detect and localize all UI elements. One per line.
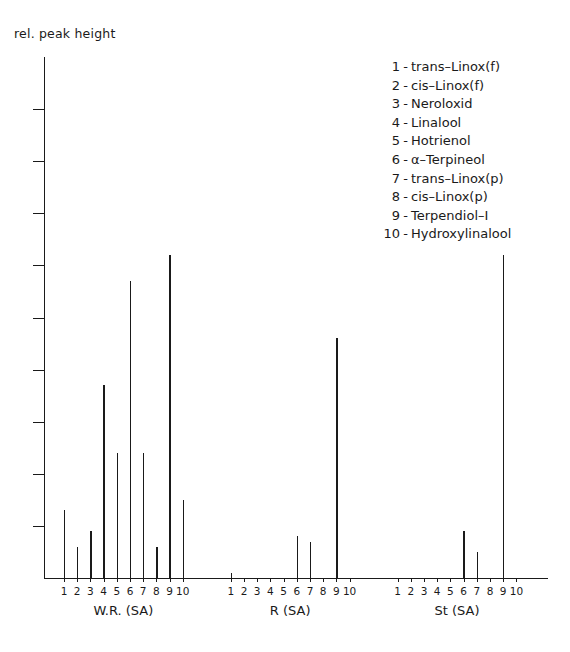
x-axis-tick [143,578,144,582]
legend-entry-separator: - [400,188,411,207]
legend-entry: 5-Hotrienol [381,132,511,151]
legend-entry-separator: - [400,95,411,114]
bar [64,510,66,578]
x-axis-tick [130,578,131,582]
legend-entry-number: 4 [381,114,400,133]
legend-entry-label: Hydroxylinalool [411,226,511,241]
x-axis-tick [464,578,465,582]
legend-entry-label: Linalool [411,115,461,130]
y-axis-line [44,57,45,578]
legend-entry: 2-cis–Linox(f) [381,77,511,96]
legend-entry-number: 6 [381,151,400,170]
x-axis-tick [490,578,491,582]
x-axis-tick [350,578,351,582]
legend-entry-number: 2 [381,77,400,96]
legend: 1-trans–Linox(f)2-cis–Linox(f)3-Neroloxi… [381,58,511,244]
bar [477,552,479,578]
bar [231,573,233,578]
x-axis-tick [90,578,91,582]
legend-entry: 9-Terpendiol–I [381,207,511,226]
legend-entry-number: 7 [381,170,400,189]
bar [310,542,312,578]
legend-entry-separator: - [400,58,411,77]
bar [336,338,338,578]
legend-entry-number: 1 [381,58,400,77]
x-axis-tick [117,578,118,582]
x-axis-tick [411,578,412,582]
legend-entry: 10-Hydroxylinalool [381,225,511,244]
bar [90,531,92,578]
x-axis-group-label: St (SA) [434,603,479,618]
x-axis-tick [336,578,337,582]
x-axis-tick [270,578,271,582]
legend-entry: 8-cis–Linox(p) [381,188,511,207]
x-axis-tick [323,578,324,582]
legend-entry-number: 3 [381,95,400,114]
legend-entry-separator: - [400,207,411,226]
legend-entry-separator: - [400,77,411,96]
legend-entry-separator: - [400,151,411,170]
bar [503,255,505,578]
x-axis-tick [64,578,65,582]
x-axis-tick [516,578,517,582]
y-axis-tick [33,526,44,527]
y-axis-tick [33,213,44,214]
legend-entry-label: Neroloxid [411,96,472,111]
y-axis-tick [33,109,44,110]
y-axis-tick [33,474,44,475]
y-axis-tick [33,161,44,162]
legend-entry-label: trans–Linox(p) [411,171,504,186]
bar [103,385,105,578]
bar [117,453,119,578]
x-axis-group-label: W.R. (SA) [93,603,153,618]
x-axis-tick-label: 10 [508,585,524,597]
x-axis-tick [183,578,184,582]
legend-entry-separator: - [400,170,411,189]
y-axis-tick [33,265,44,266]
chart-canvas: rel. peak height 12345678910W.R. (SA)123… [0,0,570,652]
x-axis-tick [310,578,311,582]
legend-entry-number: 8 [381,188,400,207]
bar [156,547,158,578]
x-axis-tick [424,578,425,582]
y-axis-tick [33,318,44,319]
legend-entry-separator: - [400,132,411,151]
legend-entry-label: Hotrienol [411,133,471,148]
x-axis-tick [231,578,232,582]
legend-entry-number: 9 [381,207,400,226]
bar [463,531,465,578]
legend-entry: 4-Linalool [381,114,511,133]
legend-entry: 7-trans–Linox(p) [381,170,511,189]
x-axis-tick [398,578,399,582]
y-axis-tick [33,422,44,423]
x-axis-tick [77,578,78,582]
x-axis-tick-label: 10 [175,585,191,597]
x-axis-group-label: R (SA) [270,603,311,618]
legend-entry-label: trans–Linox(f) [411,59,500,74]
x-axis-tick [156,578,157,582]
legend-entry: 1-trans–Linox(f) [381,58,511,77]
legend-entry-label: α–Terpineol [411,152,485,167]
x-axis-tick [244,578,245,582]
x-axis-tick [437,578,438,582]
legend-entry-separator: - [400,225,411,244]
bar [143,453,145,578]
bar [297,536,299,578]
legend-entry-number: 10 [381,225,400,244]
legend-entry-number: 5 [381,132,400,151]
bar [169,255,171,578]
x-axis-tick [477,578,478,582]
legend-entry-label: Terpendiol–I [411,208,488,223]
y-axis-tick [33,370,44,371]
x-axis-tick [284,578,285,582]
x-axis-tick [170,578,171,582]
x-axis-tick [450,578,451,582]
x-axis-tick [257,578,258,582]
legend-entry: 3-Neroloxid [381,95,511,114]
x-axis-tick [503,578,504,582]
x-axis-tick [297,578,298,582]
y-axis-label: rel. peak height [14,26,116,41]
bar [130,281,132,578]
x-axis-tick-label: 10 [342,585,358,597]
bar [183,500,185,578]
